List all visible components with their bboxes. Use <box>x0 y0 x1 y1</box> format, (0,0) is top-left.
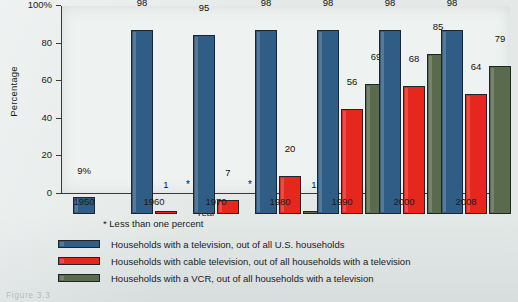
legend-swatch-cable <box>58 257 100 265</box>
figure-caption: Figure 3.3 <box>6 290 50 300</box>
y-tick-label-60: 60 <box>41 75 52 85</box>
bar-label-tv-1950: 9% <box>64 166 104 176</box>
x-tick-label-1980: 1980 <box>250 196 310 207</box>
x-tick-label-2008: 2008 <box>436 196 496 207</box>
bar-label-cable-1970: 7 <box>208 168 248 178</box>
y-tick-100 <box>56 5 61 6</box>
bar-cable-2000 <box>403 86 425 214</box>
legend-item-cable: Households with cable television, out of… <box>58 254 410 268</box>
bar-tv-2008 <box>441 30 463 214</box>
legend-label-cable: Households with cable television, out of… <box>111 256 410 267</box>
bar-highlight <box>367 86 370 212</box>
bar-highlight <box>443 32 446 212</box>
bar-highlight <box>429 56 432 212</box>
bar-label-cable-1980: 20 <box>270 144 310 154</box>
bar-highlight <box>319 32 322 212</box>
x-tick-label-1960: 1960 <box>124 196 184 207</box>
y-tick-60 <box>56 80 61 81</box>
bar-label-tv-2000: 98 <box>360 0 420 8</box>
y-tick-40 <box>56 118 61 119</box>
bar-highlight <box>257 32 260 212</box>
y-tick-label-20: 20 <box>41 150 52 160</box>
bar-tv-1990 <box>317 30 339 214</box>
bar-highlight <box>491 68 494 212</box>
bar-label-tv-1980: 98 <box>236 0 296 8</box>
y-axis-title: Percentage <box>8 57 19 127</box>
y-tick-label-100: 100% <box>28 0 52 10</box>
legend-footnote: * Less than one percent <box>103 218 203 229</box>
bar-chart: 0 20 40 60 80 100% Percentage Year 9% 19… <box>0 0 518 214</box>
bar-highlight <box>195 37 198 212</box>
less-than-one-percent-marker-vcr-1960: * <box>186 180 190 190</box>
bar-highlight <box>467 96 470 212</box>
y-tick-0 <box>56 193 61 194</box>
x-tick-label-1990: 1990 <box>312 196 372 207</box>
y-axis-line <box>61 6 62 194</box>
legend-item-television: Households with a television, out of all… <box>58 237 344 251</box>
x-tick-label-2000: 2000 <box>374 196 434 207</box>
bar-label-tv-2008: 98 <box>422 0 482 8</box>
bar-highlight <box>405 88 408 212</box>
swatch-highlight <box>60 276 64 280</box>
swatch-highlight <box>60 242 64 246</box>
y-tick-label-0: 0 <box>47 188 52 198</box>
y-tick-20 <box>56 155 61 156</box>
legend-swatch-television <box>58 240 100 248</box>
bar-vcr-2008 <box>489 66 511 214</box>
bar-highlight <box>133 32 136 212</box>
bar-label-tv-1990: 98 <box>298 0 358 8</box>
bar-label-tv-1970: 95 <box>174 3 234 13</box>
y-tick-80 <box>56 43 61 44</box>
legend-label-television: Households with a television, out of all… <box>111 239 344 250</box>
bar-label-cable-1960: 1 <box>146 180 186 190</box>
y-tick-label-80: 80 <box>41 38 52 48</box>
legend-label-vcr: Households with a VCR, out of all househ… <box>111 273 373 284</box>
bar-tv-1980 <box>255 30 277 214</box>
y-tick-label-40: 40 <box>41 113 52 123</box>
x-tick-label-1970: 1970 <box>186 196 246 207</box>
bar-tv-1970 <box>193 35 215 214</box>
x-tick-label-1950: 1950 <box>64 196 104 207</box>
bar-highlight <box>381 32 384 212</box>
swatch-highlight <box>60 259 64 263</box>
bar-label-vcr-2008: 79 <box>480 34 518 44</box>
bar-label-tv-1960: 98 <box>112 0 172 8</box>
legend-swatch-vcr <box>58 274 100 282</box>
less-than-one-percent-marker-vcr-1970: * <box>248 180 252 190</box>
legend-item-vcr: Households with a VCR, out of all househ… <box>58 271 373 285</box>
bar-cable-1960 <box>155 211 177 214</box>
